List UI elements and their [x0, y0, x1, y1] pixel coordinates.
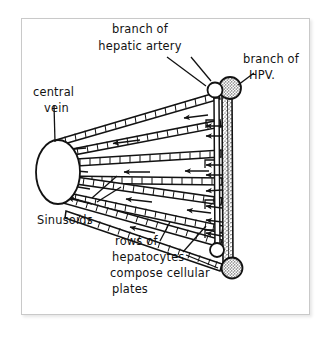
- label-sinusoids: Sinusoids: [37, 213, 93, 227]
- central-vein: [36, 140, 80, 204]
- label-hpv-line1: branch of: [243, 52, 300, 66]
- label-hepatic-artery-line1: branch of: [112, 22, 169, 36]
- leader-hepatic-artery-a: [167, 57, 206, 86]
- label-central-vein: central vein: [33, 85, 74, 115]
- hepatic-artery-branch: [214, 98, 220, 248]
- illustration-ink: branch of hepatic artery branch of HPV. …: [33, 22, 300, 296]
- label-hpv-line2: HPV.: [249, 68, 275, 82]
- portal-triad-top: [208, 77, 242, 99]
- hpv-bulb-bottom: [222, 258, 243, 279]
- label-hepatocytes-line3: compose cellular: [110, 266, 210, 280]
- label-hpv: branch of HPV.: [243, 52, 300, 82]
- label-central-vein-line2: vein: [44, 101, 69, 115]
- label-hepatocytes-line4: plates: [112, 282, 148, 296]
- hepatic-artery-bulb-bottom: [210, 243, 224, 257]
- portal-vein-branch: [222, 96, 233, 262]
- label-sinusoids-line1: Sinusoids: [37, 213, 93, 227]
- label-hepatic-artery: branch of hepatic artery: [98, 22, 181, 53]
- hepatic-plate-1: [56, 92, 221, 158]
- label-central-vein-line1: central: [33, 85, 74, 99]
- label-hepatocytes-line1: rows of: [115, 234, 158, 248]
- liver-lobule-illustration: branch of hepatic artery branch of HPV. …: [0, 0, 334, 338]
- label-hepatocytes-line2: hepatocytes: [112, 250, 185, 264]
- hepatic-artery-bulb-top: [208, 83, 223, 98]
- diagram-page: branch of hepatic artery branch of HPV. …: [0, 0, 334, 338]
- label-hepatic-artery-line2: hepatic artery: [98, 39, 181, 53]
